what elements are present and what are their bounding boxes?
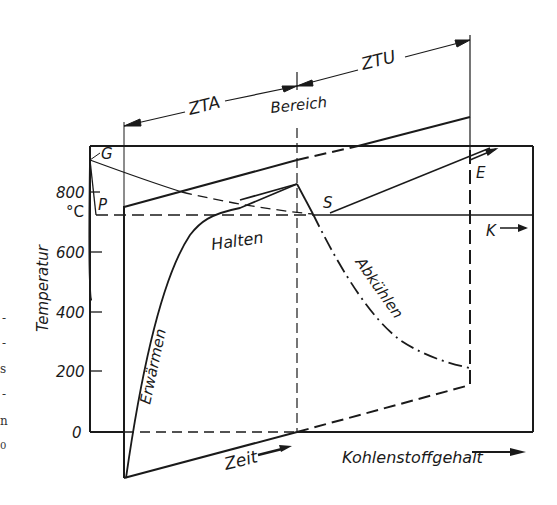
margin-fragment: - <box>2 336 6 350</box>
margin-fragment: - <box>2 387 6 401</box>
tick-400: 400 <box>56 304 85 322</box>
point-p-label: P <box>98 196 108 214</box>
tick-0: 0 <box>72 424 82 442</box>
y-axis-unit: °C <box>66 203 84 221</box>
point-k-label: K <box>486 222 497 240</box>
tick-800: 800 <box>56 184 85 202</box>
gs-line <box>89 153 313 300</box>
y-axis-ticks <box>90 192 102 371</box>
margin-fragment: n <box>0 414 8 428</box>
ztu-label: ZTU <box>358 46 398 74</box>
point-g-label: G <box>101 145 113 163</box>
heating-label: Erwärmen <box>136 327 170 406</box>
margin-fragment: s <box>0 362 6 376</box>
holding-line <box>240 184 297 200</box>
margin-fragment: 0 <box>0 440 6 451</box>
tick-200: 200 <box>56 363 85 381</box>
time-arrow <box>258 445 292 455</box>
k-arrow: K <box>486 222 528 240</box>
iron-carbon-ztu-diagram: - - s - n 0 800 °C 600 400 200 0 Tempera… <box>0 0 557 505</box>
diagram-canvas: - - s - n 0 800 °C 600 400 200 0 Tempera… <box>0 0 557 505</box>
tick-600: 600 <box>56 244 85 262</box>
point-e-label: E <box>476 164 486 182</box>
holding-label: Halten <box>210 228 265 254</box>
cooling-label: Abkühlen <box>351 253 407 322</box>
se-line <box>330 148 496 213</box>
bereich-label: Bereich <box>270 93 328 117</box>
margin-fragments: - - s - n 0 <box>0 311 8 451</box>
margin-fragment: - <box>2 311 6 325</box>
point-s-label: S <box>323 194 333 212</box>
y-axis-label: Temperatur <box>34 244 52 332</box>
zta-label: ZTA <box>185 92 222 119</box>
carbon-axis-label: Kohlenstoffgehalt <box>342 448 484 467</box>
y-axis-tick-labels: 800 °C 600 400 200 0 <box>56 184 85 442</box>
